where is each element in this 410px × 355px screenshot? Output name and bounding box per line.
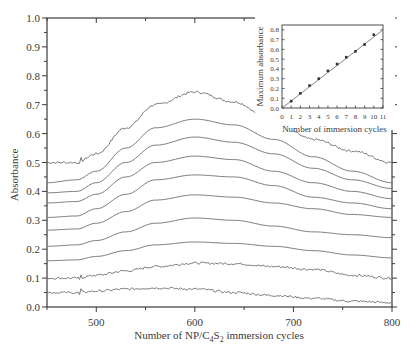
inset-y-tick-label: 0.5 <box>270 56 279 64</box>
inset-data-point <box>336 63 339 66</box>
y-tick-label: 0.0 <box>26 301 40 313</box>
inset-data-point <box>308 84 311 87</box>
inset-y-tick-label: 0.1 <box>270 95 279 103</box>
inset-data-point <box>299 92 302 95</box>
inset-x-tick-label: 11 <box>380 113 387 121</box>
y-tick-label: 0.4 <box>26 185 40 197</box>
spectrum-line <box>47 137 392 193</box>
inset-y-axis-label: Maximum absorbance <box>255 26 265 106</box>
inset-data-point <box>373 33 376 36</box>
inset-x-tick-label: 7 <box>345 113 349 121</box>
x-tick-label: 800 <box>384 316 401 328</box>
inset-x-tick-label: 6 <box>335 113 339 121</box>
inset-data-point <box>327 70 330 73</box>
y-tick-label: 0.2 <box>26 243 40 255</box>
x-axis-label: Number of NP/C4S2 immersion cycles <box>134 329 303 344</box>
inset-x-tick-label: 0 <box>280 113 284 121</box>
inset-y-tick-label: 0.8 <box>270 26 279 34</box>
y-tick-label: 0.8 <box>26 70 40 82</box>
inset-y-tick-label: 0.6 <box>270 46 279 54</box>
y-tick-label: 0.5 <box>26 157 40 169</box>
y-tick-label: 1.0 <box>26 12 40 24</box>
spectrum-line <box>47 287 392 303</box>
y-axis-label: Absorbance <box>8 149 20 202</box>
absorbance-chart: 0.00.10.20.30.40.50.60.70.80.91.05006007… <box>0 0 410 355</box>
inset-x-axis-label: Number of immersion cycles <box>282 124 387 134</box>
inset-y-tick-label: 0.3 <box>270 75 279 83</box>
x-tick-label: 500 <box>88 316 105 328</box>
inset-x-tick-label: 2 <box>299 113 303 121</box>
inset-data-point <box>345 56 348 59</box>
y-tick-label: 0.6 <box>26 128 40 140</box>
spectrum-line <box>47 195 392 230</box>
inset-x-tick-label: 4 <box>317 113 321 121</box>
inset-y-tick-label: 0.7 <box>270 36 279 44</box>
inset-data-point <box>354 50 357 53</box>
x-tick-label: 600 <box>187 316 204 328</box>
inset-x-tick-label: 10 <box>370 113 378 121</box>
inset-x-tick-label: 9 <box>363 113 367 121</box>
y-tick-label: 0.9 <box>26 41 40 53</box>
chart-canvas: 0.00.10.20.30.40.50.60.70.80.91.05006007… <box>0 0 410 355</box>
spectrum-line <box>47 218 392 246</box>
inset-data-point <box>290 100 293 103</box>
inset-y-tick-label: 0.0 <box>270 105 279 113</box>
x-tick-label: 700 <box>285 316 302 328</box>
spectrum-line <box>47 262 392 280</box>
inset-x-tick-label: 5 <box>326 113 330 121</box>
inset-x-tick-label: 8 <box>354 113 358 121</box>
inset-y-tick-label: 0.2 <box>270 85 279 93</box>
spectrum-line <box>47 242 392 261</box>
y-tick-label: 0.3 <box>26 214 40 226</box>
inset-x-tick-label: 1 <box>289 113 293 121</box>
y-tick-label: 0.7 <box>26 99 40 111</box>
inset-data-point <box>317 77 320 80</box>
inset-y-tick-label: 0.4 <box>270 65 279 73</box>
inset-x-tick-label: 3 <box>308 113 312 121</box>
y-tick-label: 0.1 <box>26 272 40 284</box>
inset-data-point <box>363 43 366 46</box>
